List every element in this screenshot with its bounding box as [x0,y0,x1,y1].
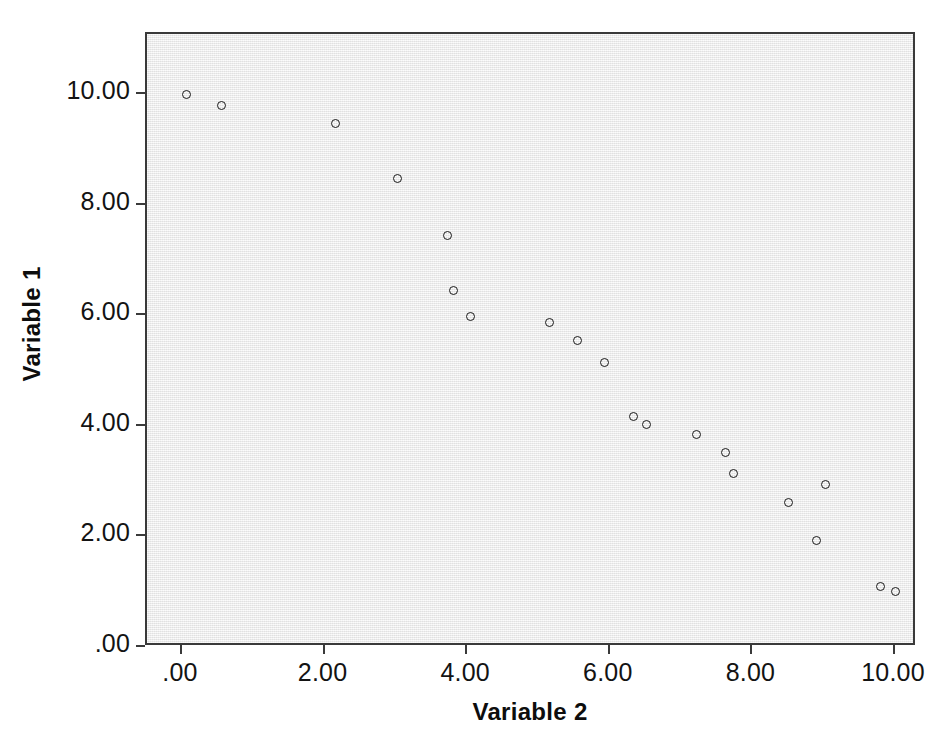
x-tick-label: 8.00 [670,658,830,687]
x-axis-title: Variable 2 [145,698,915,726]
x-tick-mark [893,645,895,654]
data-point [891,587,900,596]
x-tick-label: 4.00 [385,658,545,687]
data-point [443,231,452,240]
data-point [642,420,651,429]
data-point [393,174,402,183]
data-point [331,119,340,128]
data-point [217,101,226,110]
scatter-plot-figure: .002.004.006.008.0010.00 .002.004.006.00… [0,0,941,735]
x-tick-label: 10.00 [813,658,941,687]
x-tick-mark [323,645,325,654]
data-point [629,412,638,421]
y-axis-title: Variable 1 [18,214,46,434]
data-point [600,358,609,367]
data-point [182,90,191,99]
y-tick-label: 10.00 [10,76,130,105]
x-tick-mark [750,645,752,654]
data-point [876,582,885,591]
y-tick-mark [136,645,145,647]
data-point [466,312,475,321]
y-tick-mark [136,534,145,536]
x-tick-label: 2.00 [243,658,403,687]
y-tick-mark [136,92,145,94]
data-point [729,469,738,478]
y-tick-label: 2.00 [10,518,130,547]
x-tick-label: 6.00 [528,658,688,687]
data-point [721,448,730,457]
y-tick-mark [136,313,145,315]
panel-texture [147,34,913,643]
x-tick-mark [608,645,610,654]
y-tick-label: .00 [10,629,130,658]
x-tick-mark [180,645,182,654]
plot-area [145,32,915,645]
data-point [812,536,821,545]
y-tick-mark [136,203,145,205]
data-point [784,498,793,507]
data-point [449,286,458,295]
data-point [573,336,582,345]
data-point [692,430,701,439]
y-tick-mark [136,424,145,426]
x-tick-mark [465,645,467,654]
data-point [545,318,554,327]
data-point [821,480,830,489]
y-tick-label: 8.00 [10,187,130,216]
x-tick-label: .00 [100,658,260,687]
